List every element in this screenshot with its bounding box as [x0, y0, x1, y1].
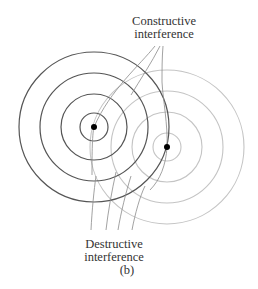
interference-diagram: Constructive interference Destructive in…: [0, 0, 258, 289]
source-1-dot: [91, 124, 97, 130]
constructive-interference-label: Constructive interference: [130, 15, 198, 41]
destructive-interference-label: Destructive interference: [83, 238, 145, 264]
destructive-pointer-1: [91, 176, 96, 230]
destructive-label-line-2: interference: [83, 251, 145, 264]
constructive-pointer-3: [150, 46, 167, 190]
constructive-label-line-2: interference: [130, 28, 198, 41]
source-2-dot: [164, 144, 170, 150]
panel-label: (b): [115, 264, 139, 277]
